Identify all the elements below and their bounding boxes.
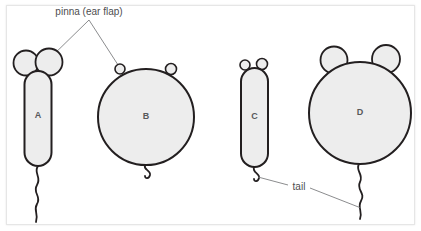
shape-d-tail [358, 164, 362, 219]
shape-a-tail [36, 166, 39, 222]
shape-d-letter: D [357, 107, 364, 117]
shape-d-group[interactable]: D [309, 45, 411, 219]
pinna-label: pinna (ear flap) [55, 6, 122, 17]
figure-frame: A B C D [0, 0, 421, 231]
shape-c-letter: C [251, 111, 258, 121]
diagram-canvas: A B C D [0, 0, 421, 231]
shape-a-group[interactable]: A [14, 49, 63, 223]
tail-leader-to-d [310, 188, 361, 208]
tail-leader-to-c [258, 177, 288, 185]
shape-b-letter: B [143, 111, 150, 121]
shape-a-letter: A [35, 110, 42, 120]
shape-b-tail [145, 165, 150, 178]
tail-label: tail [293, 181, 306, 192]
pinna-leader-to-b [89, 20, 120, 68]
shape-c-group[interactable]: C [240, 59, 268, 182]
shape-b-group[interactable]: B [98, 64, 194, 179]
shape-b-left-ear [115, 64, 125, 74]
tail-leader-lines [258, 177, 361, 208]
shape-c-tail [254, 167, 259, 181]
